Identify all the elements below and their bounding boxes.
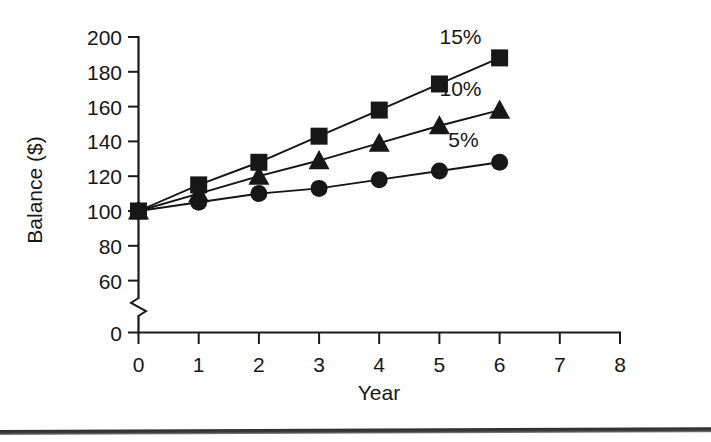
x-tick-label-5: 5 [434, 353, 446, 376]
data-marker-circle [190, 194, 207, 211]
y-tick-label-100: 100 [87, 200, 122, 223]
data-marker-circle [431, 162, 448, 179]
data-marker-circle [311, 180, 328, 197]
x-axis-title: Year [358, 381, 400, 404]
y-axis-tick-labels: 200 180 160 140 120 100 80 60 0 [87, 26, 122, 345]
x-tick-label-3: 3 [313, 353, 325, 376]
chart-svg: 200 180 160 140 120 100 80 60 0 [0, 0, 711, 442]
data-marker-circle [371, 171, 388, 188]
y-axis-break-zigzag [131, 298, 146, 316]
y-axis-title: Balance ($) [23, 136, 46, 243]
series-label-5%: 5% [448, 128, 478, 151]
y-tick-label-0: 0 [110, 322, 122, 345]
data-marker-triangle [489, 100, 510, 119]
x-tick-label-7: 7 [554, 353, 566, 376]
y-axis [131, 37, 146, 332]
x-tick-label-1: 1 [193, 353, 205, 376]
screenshot-page: 200 180 160 140 120 100 80 60 0 [0, 0, 711, 442]
y-tick-label-200: 200 [87, 26, 122, 49]
data-marker-triangle [309, 150, 330, 169]
x-axis-tick-labels: 0 1 2 3 4 5 6 7 8 [133, 353, 626, 376]
data-marker-square [311, 128, 328, 145]
y-tick-label-120: 120 [87, 165, 122, 188]
y-tick-label-80: 80 [99, 235, 122, 258]
x-tick-label-8: 8 [614, 353, 626, 376]
data-marker-circle [130, 203, 147, 220]
data-marker-square [491, 49, 508, 66]
x-tick-label-0: 0 [133, 353, 145, 376]
x-axis-ticks [139, 333, 621, 345]
data-marker-triangle [369, 133, 390, 152]
x-tick-label-6: 6 [494, 353, 506, 376]
x-tick-label-2: 2 [253, 353, 265, 376]
data-marker-circle [491, 154, 508, 171]
y-tick-label-180: 180 [87, 61, 122, 84]
y-axis-ticks [128, 37, 139, 333]
data-marker-circle [250, 185, 267, 202]
series-label-15%: 15% [439, 25, 481, 48]
x-tick-label-4: 4 [373, 353, 385, 376]
y-tick-label-160: 160 [87, 96, 122, 119]
y-tick-label-60: 60 [99, 270, 122, 293]
data-marker-square [371, 102, 388, 119]
series-label-10%: 10% [439, 77, 481, 100]
y-tick-label-140: 140 [87, 130, 122, 153]
series-10% [128, 100, 510, 220]
line-chart-figure: 200 180 160 140 120 100 80 60 0 [0, 0, 711, 442]
